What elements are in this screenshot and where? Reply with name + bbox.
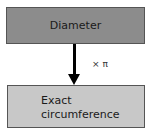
diameter-box: Diameter — [6, 7, 145, 44]
circumference-box: Exact circumference — [7, 85, 145, 128]
multiply-pi-label: × π — [92, 59, 108, 69]
diameter-label: Diameter — [50, 19, 101, 32]
circumference-label: Exact circumference — [41, 94, 120, 122]
arrow-down-icon — [68, 74, 80, 85]
arrow-line — [73, 44, 76, 76]
